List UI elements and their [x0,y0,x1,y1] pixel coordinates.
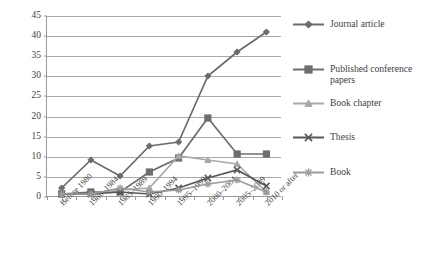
x-tick-mark [106,196,107,200]
y-tick-label: 20 [32,112,42,122]
y-tick-label: 30 [32,72,42,82]
legend-label: Thesis [330,131,355,142]
data-point-diamond [305,21,312,28]
legend-item-published-conference-papers[interactable]: Published conference papers [292,63,422,85]
legend-marker-triangle-icon [292,98,325,109]
x-tick-mark [194,196,195,200]
data-point-asterisk [263,188,270,195]
data-point-asterisk [304,168,312,176]
x-tick-mark [253,196,254,200]
legend-label: Book chapter [330,97,381,108]
legend-item-book[interactable]: Book [292,166,351,178]
y-tick-label: 40 [32,31,42,41]
legend-label: Book [330,166,351,177]
data-point-square [205,115,211,121]
legend-label: Published conference papers [330,63,422,85]
series-layer [47,16,281,196]
plot-area: 051015202530354045 Before 19801980–19841… [46,16,281,197]
y-tick-label: 15 [32,132,42,142]
data-point-square [305,66,312,73]
y-tick-label: 10 [32,152,42,162]
series-book [58,176,270,197]
chart-root: 051015202530354045 Before 19801980–19841… [0,0,427,262]
y-tick-label: 5 [36,172,41,182]
x-tick-mark [76,196,77,200]
data-point-asterisk [234,176,241,183]
legend-label: Journal article [330,18,385,29]
data-point-asterisk [58,190,65,197]
y-tick-label: 35 [32,51,42,61]
data-point-asterisk [204,180,211,187]
data-point-asterisk [117,184,124,191]
data-point-asterisk [87,190,94,197]
data-point-square [263,151,269,157]
legend-marker-asterisk-icon [292,167,325,178]
legend-marker-x-icon [292,132,325,143]
series-published-conference-papers [59,115,270,197]
legend-item-book-chapter[interactable]: Book chapter [292,97,381,109]
x-tick-mark [165,196,166,200]
data-point-square [234,151,240,157]
x-tick-mark [282,196,283,200]
y-tick-label: 25 [32,92,42,102]
data-point-square [146,169,152,175]
legend-marker-square-icon [292,64,325,75]
data-point-asterisk [175,186,182,193]
x-tick-mark [47,196,48,200]
legend-item-thesis[interactable]: Thesis [292,131,355,143]
data-point-diamond [176,139,182,145]
x-tick-mark [135,196,136,200]
legend-marker-diamond-icon [292,19,325,30]
x-tick-mark [223,196,224,200]
chart-legend: Journal articlePublished conference pape… [292,16,423,198]
data-point-asterisk [146,188,153,195]
y-tick-label: 45 [32,11,42,21]
legend-item-journal-article[interactable]: Journal article [292,18,385,30]
y-tick-label: 0 [36,192,41,202]
